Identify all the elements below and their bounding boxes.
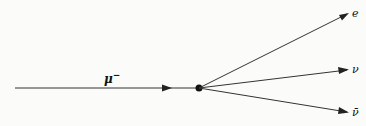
arrowhead-icon bbox=[338, 107, 349, 114]
diagram-canvas: μ− e ν ν̄ bbox=[0, 0, 366, 126]
arrowhead-icon bbox=[339, 13, 349, 21]
neutrino-line bbox=[199, 67, 349, 88]
arrowhead-icon bbox=[162, 85, 172, 92]
neutrino-label: ν bbox=[352, 63, 359, 76]
arrowhead-icon bbox=[338, 67, 349, 74]
electron-label: e bbox=[352, 7, 359, 20]
antineutrino-label: ν̄ bbox=[352, 106, 359, 119]
muon-label: μ− bbox=[104, 70, 120, 86]
electron-line bbox=[199, 13, 349, 88]
antineutrino-line bbox=[199, 88, 349, 114]
feynman-diagram: μ− e ν ν̄ bbox=[0, 0, 366, 126]
